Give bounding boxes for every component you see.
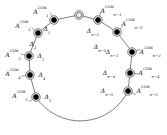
com-node-an3[interactable] — [128, 48, 136, 56]
node-group — [25, 11, 136, 101]
node-filled-core — [28, 73, 33, 78]
com-node-an5[interactable] — [124, 87, 132, 95]
node-filled-core — [27, 54, 32, 59]
node-hollow-core — [77, 13, 82, 18]
com-node-an1[interactable] — [94, 16, 102, 24]
node-filled-core — [36, 31, 41, 36]
diagram-canvas — [0, 0, 167, 135]
node-filled-core — [126, 89, 131, 94]
node-filled-core — [130, 50, 135, 55]
node-filled-core — [115, 30, 120, 35]
node-filled-core — [128, 71, 133, 76]
com-node-a1[interactable] — [50, 16, 58, 24]
com-node-an2[interactable] — [113, 28, 121, 36]
ring-open-arc — [36, 91, 128, 121]
ring-arc-group — [21, 12, 140, 121]
origin-node[interactable] — [75, 11, 83, 19]
com-node-a5[interactable] — [32, 93, 40, 101]
node-filled-core — [52, 18, 57, 23]
node-filled-core — [34, 95, 39, 100]
node-filled-core — [96, 18, 101, 23]
com-node-an4[interactable] — [126, 69, 134, 77]
com-node-a2[interactable] — [34, 29, 42, 37]
com-node-a4[interactable] — [26, 71, 34, 79]
ring-cycle-diagram: ACOM1ACOM2ACOM3ACOM4ACOM5ACOMn−1ACOMn−2A… — [0, 0, 167, 135]
com-node-a3[interactable] — [25, 52, 33, 60]
